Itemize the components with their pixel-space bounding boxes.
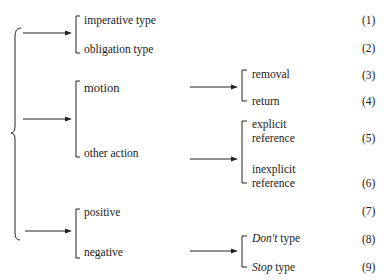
arrow-head-icon — [65, 229, 72, 234]
label-dont-italic: Don't — [252, 232, 277, 244]
label-removal: removal — [252, 68, 290, 80]
label-stop-type: Stop type — [252, 261, 295, 273]
label-explicit-reference: reference — [252, 132, 295, 144]
label-return: return — [252, 95, 279, 107]
arrow-head-icon — [231, 249, 238, 254]
label-stop-rest: type — [275, 261, 295, 273]
label-dont-rest: type — [280, 232, 300, 244]
number-4: (4) — [362, 95, 375, 107]
label-imperative-type: imperative type — [84, 14, 156, 26]
curly-brace — [11, 28, 21, 240]
bracket-other-action — [242, 121, 247, 183]
number-5: (5) — [362, 132, 375, 144]
number-2: (2) — [362, 42, 375, 54]
label-dont-type: Don't type — [252, 232, 300, 244]
number-9: (9) — [362, 261, 375, 273]
bracket-negative — [242, 236, 247, 267]
arrow-head-icon — [65, 31, 72, 36]
bracket-group-3 — [76, 209, 80, 258]
label-inexplicit: inexplicit — [252, 163, 295, 175]
number-6: (6) — [362, 177, 375, 189]
label-explicit: explicit — [252, 118, 287, 130]
arrow-head-icon — [231, 157, 238, 162]
bracket-group-2 — [76, 81, 80, 157]
arrow-head-icon — [231, 85, 238, 90]
label-positive: positive — [84, 206, 120, 218]
bracket-group-1 — [76, 16, 80, 53]
label-obligation-type: obligation type — [84, 43, 153, 55]
label-stop-italic: Stop — [252, 261, 272, 273]
number-8: (8) — [362, 233, 375, 245]
label-motion: motion — [84, 82, 119, 94]
diagram-lines — [0, 0, 389, 280]
number-1: (1) — [362, 14, 375, 26]
label-inexplicit-reference: reference — [252, 177, 295, 189]
number-3: (3) — [362, 69, 375, 81]
number-7: (7) — [362, 205, 375, 217]
bracket-motion — [242, 70, 247, 101]
arrow-head-icon — [65, 117, 72, 122]
label-negative: negative — [84, 246, 123, 258]
label-other-action: other action — [84, 147, 139, 159]
